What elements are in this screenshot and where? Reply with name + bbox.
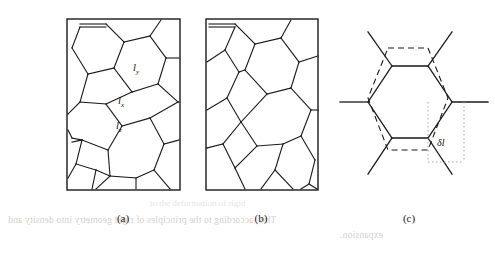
ghost-text-block-a: to the deformation of rigid [150, 198, 245, 208]
label-l-x: lx [118, 96, 124, 109]
label-l-y-sub: y [136, 68, 139, 76]
label-l-x-sub: x [121, 101, 124, 109]
label-l-y: ly [133, 63, 139, 76]
figure-root: This, according to the principles of rig… [0, 0, 495, 258]
caption-c: (c) [389, 212, 429, 224]
caption-b: (b) [241, 212, 281, 224]
label-l-z: lz [116, 121, 122, 134]
label-delta-l-base: δl [437, 137, 444, 148]
panel-c-hexagon [340, 20, 490, 185]
panel-b-lattice [205, 18, 320, 192]
dashed-reference-hexagon [368, 48, 448, 150]
label-l-z-sub: z [119, 126, 122, 134]
panel-b [205, 18, 320, 192]
ghost-text-line2: expansion. [340, 230, 383, 240]
hexagon-bonds [340, 32, 488, 174]
panel-c [340, 20, 490, 185]
label-delta-l: δl [437, 138, 444, 148]
caption-a: (a) [103, 212, 143, 224]
